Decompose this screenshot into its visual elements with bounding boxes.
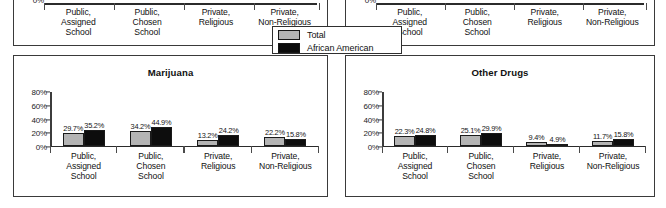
category-label: Public,AssignedSchool <box>44 7 113 45</box>
bar-value-label: 22.2% <box>265 128 285 137</box>
bar-african-american: 4.9% <box>547 144 568 146</box>
legend-item-african-american: African American <box>278 42 401 54</box>
legend-label-total: Total <box>307 30 326 40</box>
y-tick-label: 20% <box>364 129 379 138</box>
legend-label-african-american: African American <box>307 43 373 53</box>
bar-group: 9.4% 4.9% <box>514 92 580 146</box>
bar-value-label: 29.9% <box>482 124 502 133</box>
category-separator <box>646 3 647 10</box>
bar-group: 34.2% 44.9% <box>117 92 184 146</box>
bar-total: 13.2% <box>197 140 218 146</box>
category-label: Private,Religious <box>185 151 252 191</box>
y-tick-label: 0% <box>368 143 379 152</box>
chart-legend: Total African American <box>272 26 402 54</box>
category-label: Public,ChosenSchool <box>117 151 184 191</box>
category-labels: Public,AssignedSchool Public,ChosenSchoo… <box>376 7 646 45</box>
chart-panel-marijuana: Marijuana 80% 60% 40% 20% 0% 29.7% 35.2%… <box>13 55 328 197</box>
bar-african-american: 29.9% <box>481 133 502 145</box>
legend-swatch-african-american-icon <box>278 43 300 53</box>
x-axis-line <box>44 3 317 5</box>
bar-group: 29.7% 35.2% <box>50 92 117 146</box>
y-tick-label: 60% <box>364 101 379 110</box>
bar-value-label: 13.2% <box>198 131 218 140</box>
category-label: Public,ChosenSchool <box>113 7 182 45</box>
bar-african-american: 15.8% <box>285 139 306 145</box>
bar-group: 11.7% 15.8% <box>580 92 646 146</box>
category-labels: Public,AssignedSchool Public,ChosenSchoo… <box>50 151 319 191</box>
bar-african-american: 35.2% <box>84 130 105 145</box>
y-tick-zero: 0% <box>350 0 376 5</box>
bar-african-american: 24.8% <box>415 135 436 145</box>
category-separator <box>319 3 320 10</box>
bar-total: 22.2% <box>264 137 285 146</box>
bar-total: 25.1% <box>460 135 481 145</box>
bar-value-label: 9.4% <box>529 133 545 142</box>
category-label: Private,Religious <box>514 151 580 191</box>
y-tick-label: 80% <box>364 88 379 97</box>
category-label: Public,ChosenSchool <box>448 151 514 191</box>
bar-value-label: 15.8% <box>614 130 634 139</box>
chart-panel-other-drugs: Other Drugs 80% 60% 40% 20% 0% 22.3% 24.… <box>345 55 655 197</box>
category-labels: Public,AssignedSchool Public,ChosenSchoo… <box>382 151 646 191</box>
bar-value-label: 22.3% <box>395 127 415 136</box>
bar-value-label: 24.8% <box>416 126 436 135</box>
bar-groups: 29.7% 35.2% 34.2% 44.9% 13.2% 24.2% 22.2… <box>50 92 319 146</box>
bar-group: 22.2% 15.8% <box>252 92 319 146</box>
category-label: Public,AssignedSchool <box>382 151 448 191</box>
bar-african-american: 24.2% <box>218 135 239 146</box>
y-tick-label: 80% <box>32 88 47 97</box>
y-tick-label: 40% <box>364 115 379 124</box>
bar-group: 25.1% 29.9% <box>448 92 514 146</box>
bar-value-label: 25.1% <box>461 126 481 135</box>
bar-value-label: 4.9% <box>550 135 566 144</box>
legend-item-total: Total <box>278 29 401 41</box>
bar-total: 9.4% <box>526 142 547 145</box>
category-label: Public,AssignedSchool <box>50 151 117 191</box>
bar-value-label: 24.2% <box>219 126 239 135</box>
bar-value-label: 29.7% <box>63 124 83 133</box>
bar-value-label: 44.9% <box>152 118 172 127</box>
bar-total: 29.7% <box>63 133 84 145</box>
bar-group: 13.2% 24.2% <box>185 92 252 146</box>
bar-value-label: 34.2% <box>131 122 151 131</box>
bar-african-american: 15.8% <box>613 139 634 145</box>
bar-value-label: 15.8% <box>286 130 306 139</box>
chart-title-other-drugs: Other Drugs <box>346 67 654 78</box>
bar-total: 11.7% <box>592 141 613 145</box>
bar-groups: 22.3% 24.8% 25.1% 29.9% 9.4% 4.9% 11.7% … <box>382 92 646 146</box>
bar-african-american: 44.9% <box>151 127 172 146</box>
bar-total: 34.2% <box>130 131 151 145</box>
plot-area-other-drugs: 80% 60% 40% 20% 0% 22.3% 24.8% 25.1% 29.… <box>382 92 646 147</box>
y-tick-zero: 0% <box>18 0 44 5</box>
category-label: Private,Religious <box>511 7 579 45</box>
plot-area-marijuana: 80% 60% 40% 20% 0% 29.7% 35.2% 34.2% 44.… <box>50 92 319 147</box>
chart-title-marijuana: Marijuana <box>14 67 327 78</box>
legend-swatch-total-icon <box>278 30 300 40</box>
y-tick-label: 20% <box>32 129 47 138</box>
category-label: Private,Non-Religious <box>252 151 319 191</box>
category-label: Private,Religious <box>182 7 251 45</box>
y-tick-label: 0% <box>36 143 47 152</box>
category-label: Private,Non-Religious <box>579 7 647 45</box>
bar-total: 22.3% <box>394 136 415 146</box>
category-label: Private,Non-Religious <box>580 151 646 191</box>
x-axis <box>382 146 646 148</box>
y-tick-label: 60% <box>32 101 47 110</box>
category-label: Public,ChosenSchool <box>444 7 512 45</box>
bar-value-label: 11.7% <box>593 132 612 141</box>
x-axis <box>50 146 319 148</box>
bar-group: 22.3% 24.8% <box>382 92 448 146</box>
bar-value-label: 35.2% <box>84 121 104 130</box>
y-tick-label: 40% <box>32 115 47 124</box>
x-axis-line <box>376 3 644 5</box>
